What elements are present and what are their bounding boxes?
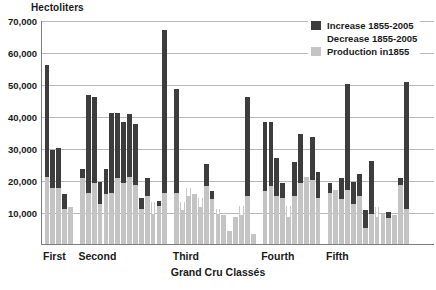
y-axis-tick-label: 60,000 xyxy=(8,48,37,59)
bar-segment-decrease xyxy=(286,206,291,217)
bar xyxy=(104,21,109,244)
white-swatch-icon xyxy=(311,34,321,43)
bar xyxy=(245,21,250,244)
bar-segment-production-1855 xyxy=(221,215,226,244)
bar xyxy=(157,21,162,244)
y-axis-tick-label: 50,000 xyxy=(8,80,37,91)
bar-segment-increase xyxy=(157,201,162,206)
dark-gray-swatch-icon xyxy=(311,21,321,30)
bar-segment-production-1855 xyxy=(162,193,167,244)
bar-segment-production-1855 xyxy=(210,199,215,244)
bar xyxy=(133,21,138,244)
bar-segment-production-1855 xyxy=(109,193,114,244)
bar-segment-increase xyxy=(369,161,374,214)
bar-segment-production-1855 xyxy=(115,178,120,244)
bar-segment-production-1855 xyxy=(381,214,386,244)
legend-item: Decrease 1855-2005 xyxy=(311,32,417,45)
bar-segment-production-1855 xyxy=(345,190,350,244)
bar xyxy=(210,21,215,244)
bar-segment-production-1855 xyxy=(398,185,403,244)
bar-segment-production-1855 xyxy=(62,209,67,244)
bar-segment-increase xyxy=(109,113,114,193)
bar xyxy=(280,21,285,244)
bar-segment-production-1855 xyxy=(216,209,221,244)
bar-segment-production-1855 xyxy=(363,228,368,244)
bar-chart: Hectoliters 10,00020,00030,00040,00050,0… xyxy=(0,0,436,290)
bar-segment-increase xyxy=(80,169,85,179)
bar xyxy=(298,21,303,244)
bar-segment-production-1855 xyxy=(80,178,85,244)
bar-segment-production-1855 xyxy=(316,198,321,244)
bar-segment-increase xyxy=(269,122,274,186)
bar-segment-increase xyxy=(339,178,344,199)
bar-segment-production-1855 xyxy=(339,199,344,244)
bar-segment-production-1855 xyxy=(174,193,179,244)
x-axis-title: Grand Cru Classés xyxy=(0,266,436,278)
bar xyxy=(251,21,256,244)
bar xyxy=(115,21,120,244)
bar-segment-increase xyxy=(280,183,285,197)
bar-segment-increase xyxy=(115,113,120,179)
bar-segment-production-1855 xyxy=(133,185,138,244)
bar-segment-increase xyxy=(386,212,391,218)
x-axis-group-label-fourth: Fourth xyxy=(261,250,294,262)
bar-segment-production-1855 xyxy=(121,183,126,244)
bar xyxy=(139,21,144,244)
bar xyxy=(121,21,126,244)
bar-segment-increase xyxy=(298,134,303,184)
legend-item-label: Production in1855 xyxy=(327,46,409,57)
bar xyxy=(151,21,156,244)
bar xyxy=(422,21,427,244)
bar-segment-increase xyxy=(92,97,97,183)
bar xyxy=(127,21,132,244)
bar-segment-production-1855 xyxy=(404,209,409,244)
bar xyxy=(162,21,167,244)
bar xyxy=(56,21,61,244)
bar-segment-decrease xyxy=(151,202,156,213)
bar xyxy=(98,21,103,244)
bar-segment-increase xyxy=(316,172,321,198)
bar xyxy=(92,21,97,244)
bar xyxy=(180,21,185,244)
bar xyxy=(292,21,297,244)
y-axis-tick-label: 70,000 xyxy=(8,16,37,27)
bar xyxy=(186,21,191,244)
bar xyxy=(274,21,279,244)
bar xyxy=(62,21,67,244)
bar-segment-production-1855 xyxy=(333,190,338,244)
bar-segment-production-1855 xyxy=(86,193,91,244)
bar-segment-production-1855 xyxy=(157,206,162,244)
bar-segment-production-1855 xyxy=(186,188,191,244)
bar-segment-increase xyxy=(292,162,297,196)
bar xyxy=(239,21,244,244)
bar-segment-increase xyxy=(56,148,61,188)
bar xyxy=(428,21,433,244)
bar-segment-production-1855 xyxy=(45,177,50,244)
bar xyxy=(50,21,55,244)
bar-segment-production-1855 xyxy=(145,196,150,244)
bar-segment-production-1855 xyxy=(310,180,315,244)
bar-segment-increase xyxy=(357,174,362,196)
bar-segment-production-1855 xyxy=(92,183,97,244)
bar xyxy=(68,21,73,244)
bar xyxy=(216,21,221,244)
bar xyxy=(109,21,114,244)
bar-segment-production-1855 xyxy=(357,196,362,244)
x-axis-group-label-second: Second xyxy=(78,250,116,262)
legend: Increase 1855-2005Decrease 1855-2005Prod… xyxy=(308,17,420,61)
bar xyxy=(80,21,85,244)
legend-item-label: Decrease 1855-2005 xyxy=(327,33,417,44)
bar-segment-production-1855 xyxy=(328,193,333,244)
bar-segment-increase xyxy=(204,164,209,186)
bar-segment-increase xyxy=(274,158,279,196)
y-axis-tick-label: 20,000 xyxy=(8,176,37,187)
y-axis-tick-labels: 10,00020,00030,00040,00050,00060,00070,0… xyxy=(0,21,41,245)
bar xyxy=(269,21,274,244)
bar-segment-production-1855 xyxy=(280,198,285,244)
bar-segment-increase xyxy=(139,198,144,209)
bar-segment-production-1855 xyxy=(139,209,144,244)
bar-segment-production-1855 xyxy=(304,177,309,244)
bar xyxy=(86,21,91,244)
bar-segment-decrease xyxy=(216,209,221,214)
bar-segment-production-1855 xyxy=(50,188,55,244)
